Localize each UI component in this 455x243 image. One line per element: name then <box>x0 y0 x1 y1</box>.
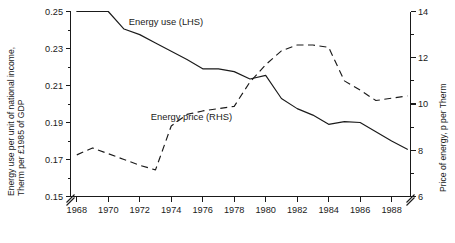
y-ticklabel-left-5: 0.25 <box>45 7 63 17</box>
y-axis-title-right: Price of energy, p per Therm <box>438 83 448 192</box>
y-axis-title-right-text: Price of energy, p per Therm <box>438 83 448 192</box>
y-ticklabel-right-4: 14 <box>418 7 428 17</box>
x-ticklabel-10: 1988 <box>381 205 401 215</box>
x-ticklabel-8: 1984 <box>318 205 338 215</box>
series-label-energy-use: Energy use (LHS) <box>129 16 204 27</box>
x-ticklabel-4: 1976 <box>192 205 212 215</box>
series-line-energy-price-rhs <box>77 45 408 170</box>
y-ticklabel-right-2: 10 <box>418 99 428 109</box>
x-ticklabel-1: 1970 <box>98 205 118 215</box>
y-ticklabel-left-2: 0.19 <box>45 118 63 128</box>
y-ticklabel-right-3: 12 <box>418 53 428 63</box>
x-ticklabel-5: 1978 <box>224 205 244 215</box>
axes-layer <box>66 12 416 206</box>
chart-figure: 0.150.170.190.210.230.256810121419681970… <box>0 0 455 243</box>
y-ticklabel-left-1: 0.17 <box>45 155 63 165</box>
series-layer <box>77 12 408 170</box>
y-axis-title-left-line2: Therm per £1985 of GDP <box>16 99 26 196</box>
labels-layer: 0.150.170.190.210.230.256810121419681970… <box>45 7 428 215</box>
x-ticklabel-9: 1986 <box>350 205 370 215</box>
y-ticklabel-left-4: 0.23 <box>45 44 63 54</box>
y-axis-title-left: Energy use per unit of national income, … <box>6 47 26 196</box>
energy-use-vs-price-line-chart: 0.150.170.190.210.230.256810121419681970… <box>0 0 455 243</box>
x-ticklabel-6: 1980 <box>255 205 275 215</box>
x-ticklabel-2: 1972 <box>130 205 150 215</box>
x-ticklabel-3: 1974 <box>161 205 181 215</box>
y-ticklabel-right-0: 6 <box>418 192 423 202</box>
x-ticklabel-7: 1982 <box>287 205 307 215</box>
y-ticklabel-left-0: 0.15 <box>45 192 63 202</box>
series-label-energy-price: Energy price (RHS) <box>151 111 232 122</box>
x-ticklabel-0: 1968 <box>67 205 87 215</box>
y-axis-title-left-line1: Energy use per unit of national income, <box>6 47 16 196</box>
y-ticklabel-right-1: 8 <box>418 146 423 156</box>
series-line-energy-use-lhs <box>77 12 408 150</box>
y-ticklabel-left-3: 0.21 <box>45 81 63 91</box>
